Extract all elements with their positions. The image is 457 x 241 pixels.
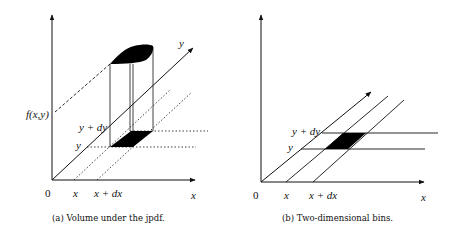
f-value-label: f(x,y): [26, 108, 49, 121]
column-top-surface: [110, 45, 153, 65]
x-tick-label: x: [72, 187, 78, 199]
caption-a: (a) Volume under the jpdf.: [52, 213, 165, 223]
y-dy-tick-label: y + dy: [78, 121, 107, 133]
x-dx-bin-line: [313, 100, 404, 182]
x-tick-label: x: [283, 189, 289, 201]
x-gridline: [74, 90, 170, 180]
x-dx-tick-label: x + dx: [93, 187, 122, 199]
x-axis-label: x: [420, 191, 426, 203]
bin-base: [110, 131, 153, 147]
f-value-projection: [55, 64, 110, 112]
y-tick-label: y: [75, 139, 81, 151]
x-axis-label: x: [190, 189, 196, 201]
y-dy-tick-label: y + dy: [291, 125, 320, 137]
panel-b-bins-diagram: 0 x x + dx x y y + dy (b) Two-dimensiona…: [253, 15, 438, 223]
y-axis: [52, 48, 193, 180]
figure-canvas: 0 x x + dx x y y y + dy f(x,y) (a) Volum…: [0, 0, 457, 241]
x-dx-tick-label: x + dx: [308, 189, 337, 201]
y-axis-label: y: [178, 37, 184, 49]
y-tick-label: y: [287, 141, 293, 153]
origin-label: 0: [253, 189, 259, 201]
origin-label: 0: [45, 187, 51, 199]
panel-a-volume-diagram: 0 x x + dx x y y y + dy f(x,y) (a) Volum…: [26, 15, 208, 223]
bin-cell: [325, 133, 366, 149]
caption-b: (b) Two-dimensional bins.: [282, 213, 393, 223]
